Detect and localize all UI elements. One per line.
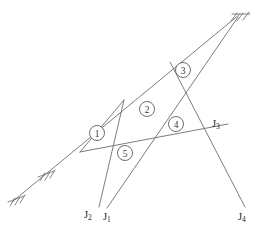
- panel-marker-4: 4: [169, 117, 184, 132]
- truss-diagram-canvas: 1 2 3 4 5: [0, 0, 265, 232]
- joint-label-j3-sub: 3: [216, 122, 220, 131]
- panel-marker-2: 2: [140, 102, 155, 117]
- panel-marker-5: 5: [118, 146, 133, 161]
- joint-label-j1: J1: [103, 211, 111, 222]
- panel-number-4: 4: [174, 120, 179, 130]
- panel-number-3: 3: [181, 66, 186, 76]
- member-web-j4-upper: [170, 62, 245, 207]
- panel-marker-3: 3: [176, 63, 191, 78]
- support-lower-mid-icon: [38, 170, 55, 181]
- joint-label-j4: J4: [238, 211, 246, 222]
- member-web-j1-upper: [107, 17, 238, 208]
- panel-number-5: 5: [123, 149, 128, 159]
- panel-number-2: 2: [145, 105, 150, 115]
- panel-number-1: 1: [95, 129, 100, 139]
- joint-label-j3: J3: [212, 118, 220, 129]
- joint-label-j2: J2: [84, 209, 92, 220]
- members-group: [12, 14, 245, 208]
- support-lower-left-icon: [8, 195, 25, 206]
- truss-diagram-figure: 1 2 3 4 5 J1 J2 J3 J4: [0, 0, 265, 232]
- joint-label-j1-sub: 1: [107, 215, 111, 224]
- panel-marker-1: 1: [90, 126, 105, 141]
- member-web-lower-tie: [80, 100, 124, 152]
- joint-label-j4-sub: 4: [242, 215, 246, 224]
- joint-label-j2-sub: 2: [88, 213, 92, 222]
